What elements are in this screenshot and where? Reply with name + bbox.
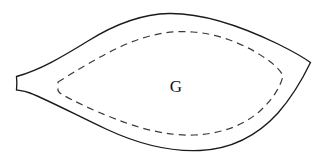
outer-region-boundary	[17, 13, 311, 150]
figure-canvas: G	[0, 0, 325, 162]
region-label-g: G	[170, 77, 182, 96]
region-diagram: G	[0, 0, 325, 162]
